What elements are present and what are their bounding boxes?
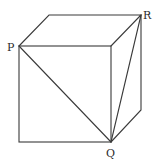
- vertex-label-r: R: [143, 9, 152, 22]
- cube-diagram: P R Q: [0, 0, 155, 164]
- diagonal-pq: [19, 46, 111, 142]
- cube-top-face: [19, 15, 141, 46]
- vertex-label-q: Q: [106, 147, 115, 160]
- diagonal-qr: [111, 15, 141, 142]
- vertex-label-p: P: [7, 41, 15, 54]
